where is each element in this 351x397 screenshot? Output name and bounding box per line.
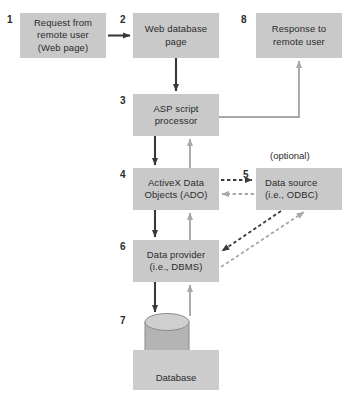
node-data-source-line-1: Data source: [265, 177, 317, 190]
optional-note: (optional): [270, 150, 310, 161]
node-response: Response to remote user: [256, 13, 342, 58]
arrow-asp-to-response: [219, 61, 299, 117]
node-number-7: 7: [120, 316, 126, 326]
node-asp-line-2: processor: [155, 115, 198, 128]
database-plate: Database: [133, 350, 219, 390]
node-ado-line-2: Objects (ADO): [144, 189, 207, 202]
node-data-source-line-2: (i.e., ODBC): [265, 189, 318, 202]
node-web-database-page-line-2: page: [165, 36, 187, 49]
node-asp-line-1: ASP script: [153, 103, 198, 116]
diagram-canvas: Request from remote user (Web page) 1 We…: [0, 0, 351, 397]
node-response-line-1: Response to: [272, 23, 326, 36]
node-ado-line-1: ActiveX Data: [148, 177, 204, 190]
node-number-1: 1: [7, 15, 13, 25]
node-web-database-page: Web database page: [133, 13, 219, 58]
node-number-8: 8: [241, 15, 247, 25]
node-number-4: 4: [120, 170, 126, 180]
node-data-provider-line-1: Data provider: [147, 249, 205, 262]
node-number-2: 2: [120, 15, 126, 25]
node-number-5: 5: [243, 170, 249, 180]
node-data-source: Data source (i.e., ODBC): [256, 168, 342, 210]
node-request-line-2: remote user: [37, 29, 89, 42]
node-number-6: 6: [120, 242, 126, 252]
node-request-line-3: (Web page): [38, 42, 88, 55]
node-number-3: 3: [120, 96, 126, 106]
node-web-database-page-line-1: Web database: [145, 23, 207, 36]
node-request-line-1: Request from: [34, 17, 92, 30]
node-response-line-2: remote user: [273, 36, 325, 49]
node-asp-script-processor: ASP script processor: [133, 94, 219, 136]
node-data-provider-line-2: (i.e., DBMS): [150, 261, 203, 274]
database-label: Database: [133, 372, 219, 383]
node-data-provider: Data provider (i.e., DBMS): [133, 240, 219, 282]
node-ado: ActiveX Data Objects (ADO): [133, 168, 219, 210]
arrow-datasource-to-provider: [222, 211, 281, 251]
node-request: Request from remote user (Web page): [20, 13, 106, 58]
arrow-provider-to-datasource: [221, 212, 304, 267]
